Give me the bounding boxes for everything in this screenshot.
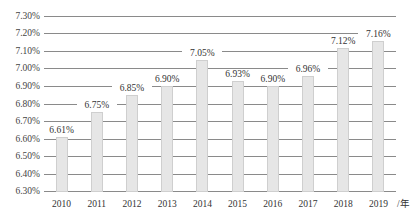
data-label: 6.75% bbox=[77, 100, 117, 110]
x-tick-label: 2015 bbox=[220, 199, 256, 209]
x-tick-label: 2018 bbox=[325, 199, 361, 209]
x-tick-label: 2010 bbox=[44, 199, 80, 209]
data-label: 6.93% bbox=[218, 69, 258, 79]
y-tick-label: 7.20% bbox=[0, 28, 40, 38]
data-label: 6.90% bbox=[253, 74, 293, 84]
bar-2014 bbox=[196, 60, 208, 192]
y-tick-label: 6.70% bbox=[0, 116, 40, 126]
bar-2012 bbox=[126, 95, 138, 192]
bar-2017 bbox=[302, 76, 314, 193]
data-label: 7.05% bbox=[182, 48, 222, 58]
y-tick-label: 6.90% bbox=[0, 81, 40, 91]
y-tick-label: 6.30% bbox=[0, 186, 40, 196]
gridline bbox=[44, 16, 396, 17]
bar-2010 bbox=[56, 137, 68, 192]
y-tick-label: 7.10% bbox=[0, 46, 40, 56]
bar-2016 bbox=[267, 86, 279, 192]
x-tick-label: 2011 bbox=[79, 199, 115, 209]
data-label: 6.96% bbox=[288, 64, 328, 74]
data-label: 6.90% bbox=[147, 74, 187, 84]
y-tick-label: 6.80% bbox=[0, 99, 40, 109]
y-tick-label: 7.30% bbox=[0, 11, 40, 21]
y-tick-label: 6.50% bbox=[0, 151, 40, 161]
bar-2019 bbox=[372, 41, 384, 193]
bar-2013 bbox=[161, 86, 173, 192]
x-axis-unit-label: /年 bbox=[397, 199, 410, 209]
data-label: 7.16% bbox=[358, 29, 398, 39]
bar-chart: 6.30%6.40%6.50%6.60%6.70%6.80%6.90%7.00%… bbox=[0, 0, 416, 216]
bar-2018 bbox=[337, 48, 349, 193]
bar-2011 bbox=[91, 112, 103, 192]
x-tick-label: 2019 bbox=[360, 199, 396, 209]
y-tick-label: 7.00% bbox=[0, 63, 40, 73]
x-tick-label: 2016 bbox=[255, 199, 291, 209]
data-label: 6.61% bbox=[42, 125, 82, 135]
y-tick-label: 6.40% bbox=[0, 169, 40, 179]
data-label: 6.85% bbox=[112, 83, 152, 93]
bar-2015 bbox=[232, 81, 244, 192]
x-tick-label: 2012 bbox=[114, 199, 150, 209]
data-label: 7.12% bbox=[323, 36, 363, 46]
y-tick-label: 6.60% bbox=[0, 134, 40, 144]
x-tick-label: 2017 bbox=[290, 199, 326, 209]
x-tick-label: 2014 bbox=[184, 199, 220, 209]
gridline bbox=[44, 33, 396, 34]
x-tick-label: 2013 bbox=[149, 199, 185, 209]
